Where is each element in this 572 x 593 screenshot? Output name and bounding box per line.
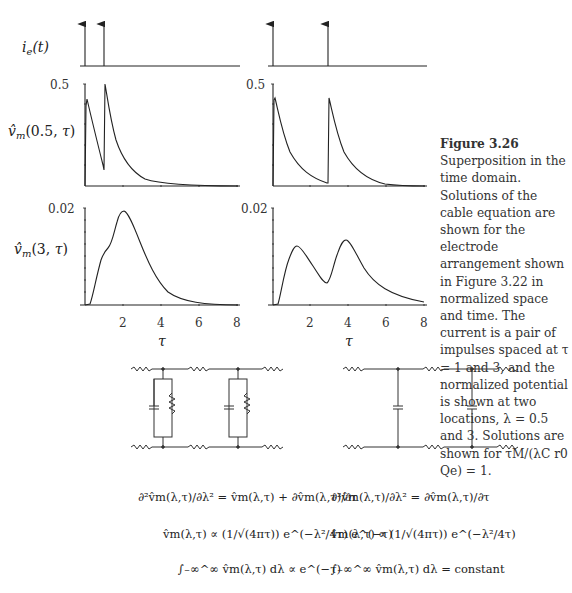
equation-right-solution: v̂m(λ,τ) ∝ (1/√(4πτ)) e^(−λ²/4τ) [331,527,516,541]
caption-text: Superposition in the time domain. Soluti… [440,154,568,478]
curve-left-bottom [85,211,238,305]
ytick-left-0.02: 0.02 [48,202,75,216]
curve-left-mid [85,84,238,186]
circuit-left [131,367,283,449]
xlabel-left: τ [158,333,166,349]
ytick-left-0.5: 0.5 [50,78,69,92]
svg-text:6: 6 [195,316,203,330]
svg-text:8: 8 [420,316,428,330]
equation-right-integral: ∫₋∞^∞ v̂m(λ,τ) dλ = constant [331,562,505,576]
ytick-right-0.5: 0.5 [246,78,265,92]
xticks-right: 2 4 6 8 τ [306,316,428,349]
row-label-current: ie(t) [22,39,49,57]
figure-caption: Figure 3.26 Superposition in the time do… [440,136,572,480]
equation-left-integral: ∫₋∞^∞ v̂m(λ,τ) dλ ∝ e^(−τ) [178,562,341,576]
curve-right-mid [273,98,425,186]
row-label-v-three: v̂m(3, τ) [14,241,68,259]
svg-text:2: 2 [119,316,127,330]
figure-number: Figure 3.26 [440,137,519,151]
ytick-right-0.02: 0.02 [241,202,268,216]
xticks-left: 2 4 6 8 τ [119,316,241,349]
row-label-v-half: v̂m(0.5, τ) [8,123,75,141]
svg-text:2: 2 [306,316,314,330]
equation-right-pde: ∂²v̂m(λ,τ)/∂λ² = ∂v̂m(λ,τ)/∂τ [331,490,490,504]
xlabel-right: τ [345,333,353,349]
svg-text:6: 6 [382,316,390,330]
svg-text:4: 4 [157,316,165,330]
svg-text:4: 4 [344,316,352,330]
equation-left-pde: ∂²v̂m(λ,τ)/∂λ² = v̂m(λ,τ) + ∂v̂m(λ,τ)/∂τ [138,490,357,504]
curve-right-bottom [273,240,424,305]
svg-text:8: 8 [233,316,241,330]
